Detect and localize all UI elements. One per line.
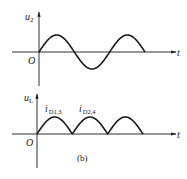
bottom-x-axis-label: t <box>177 129 180 140</box>
top-plot: u2 t O <box>12 11 180 86</box>
waveform-diagram: u2 t O uL t O iD1,3 iD2,4 (b) <box>0 0 187 179</box>
figure-caption: (b) <box>77 153 88 163</box>
bottom-origin-label: O <box>26 137 33 148</box>
bottom-rectified-wave <box>37 117 143 134</box>
top-x-axis-label: t <box>177 47 180 58</box>
bottom-y-axis-label: uL <box>24 92 33 105</box>
annotation-i-d24: iD2,4 <box>79 103 96 115</box>
top-origin-label: O <box>28 55 35 66</box>
bottom-plot: uL t O iD1,3 iD2,4 <box>12 92 180 168</box>
top-y-axis-label: u2 <box>25 11 34 24</box>
annotation-i-d13: iD1,3 <box>45 103 62 115</box>
